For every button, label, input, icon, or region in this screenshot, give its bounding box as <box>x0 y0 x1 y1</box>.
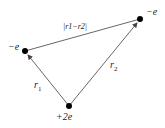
label-left-charge: −e <box>8 42 19 52</box>
label-distance: |r1−r2| <box>63 23 87 31</box>
label-right-charge: −e <box>146 7 157 17</box>
label-bottom-charge: +2e <box>56 112 72 122</box>
r2-subscript: 2 <box>114 65 118 73</box>
label-r2: r2 <box>110 60 117 73</box>
triangle-diagram <box>0 0 165 128</box>
r1-subscript: 1 <box>38 85 42 93</box>
node-left <box>22 48 28 54</box>
node-right <box>137 16 143 22</box>
node-bottom <box>66 103 72 109</box>
edge-r2-arrow <box>69 23 137 106</box>
label-r1: r1 <box>34 80 41 93</box>
